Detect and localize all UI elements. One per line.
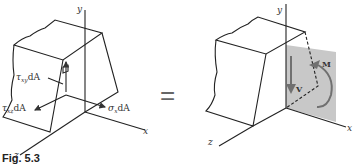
right-z-axis-inner	[253, 108, 286, 126]
tau-xz-label: τxzdA	[2, 103, 26, 114]
left-cube-front-left	[3, 45, 63, 132]
shear-force-label: V	[295, 84, 303, 94]
right-y-label: y	[276, 5, 283, 15]
right-z-axis	[219, 126, 253, 146]
right-x-label: x	[347, 123, 352, 133]
left-cube-top	[14, 20, 102, 60]
tau-xy-label: τxydA	[16, 72, 41, 84]
right-z-label: z	[207, 137, 213, 147]
sigma-x-label: σxdA	[108, 103, 130, 114]
left-x-label: x	[143, 126, 148, 136]
tau-xz-arrow	[35, 95, 66, 110]
left-x-axis	[85, 112, 145, 130]
left-y-label: y	[76, 4, 83, 14]
left-labels: y x z τxydA τxzdA σxdA	[2, 4, 148, 160]
equals-sign: =	[160, 80, 175, 110]
figure-caption: Fig. 5.3	[2, 152, 40, 164]
right-free-body	[206, 4, 346, 146]
left-cube-right-edge	[85, 33, 118, 112]
figure-canvas: y x z τxydA τxzdA σxdA =	[0, 0, 356, 167]
moment-label: M	[322, 59, 331, 69]
right-cube-front-left	[206, 40, 266, 126]
tau-xy-leader	[48, 78, 63, 84]
